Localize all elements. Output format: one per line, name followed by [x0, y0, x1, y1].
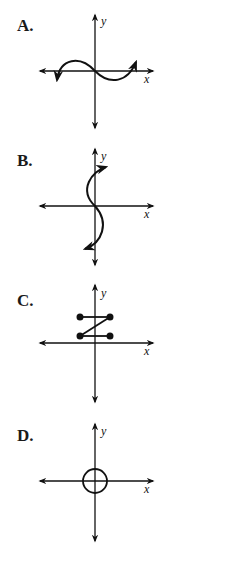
point — [77, 314, 82, 319]
x-axis-label: x — [143, 482, 150, 496]
option-d[interactable]: D. y x — [0, 410, 229, 566]
point — [77, 333, 82, 338]
option-c[interactable]: C. y x — [0, 275, 229, 415]
y-axis-label: y — [100, 424, 107, 438]
y-axis-label: y — [100, 149, 107, 163]
point — [107, 314, 112, 319]
graph-a: y x — [0, 0, 229, 140]
x-axis-label: x — [143, 344, 150, 358]
point — [107, 333, 112, 338]
x-axis-label: x — [143, 207, 150, 221]
option-b[interactable]: B. y x — [0, 135, 229, 275]
graph-d: y x — [0, 410, 229, 566]
x-axis-label: x — [143, 72, 150, 86]
y-axis-label: y — [100, 14, 107, 28]
option-a[interactable]: A. y x — [0, 0, 229, 140]
graph-c: y x — [0, 275, 229, 415]
y-axis-label: y — [100, 286, 107, 300]
graph-b: y x — [0, 135, 229, 275]
